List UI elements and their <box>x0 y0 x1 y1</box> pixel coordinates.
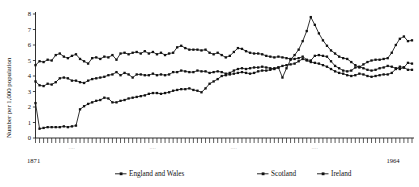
data-point <box>342 69 344 71</box>
data-point <box>51 126 53 128</box>
data-point <box>160 73 162 75</box>
legend-item-scotland[interactable]: Scotland <box>257 170 297 178</box>
data-point <box>87 62 89 64</box>
data-point <box>95 77 97 79</box>
data-point <box>59 77 61 79</box>
data-point <box>249 73 251 75</box>
data-point <box>180 88 182 90</box>
series-scotland <box>34 58 413 87</box>
data-point <box>115 71 117 73</box>
data-point <box>249 67 251 69</box>
data-point <box>273 67 275 69</box>
data-point <box>144 94 146 96</box>
data-point <box>346 70 348 72</box>
legend-item-ireland[interactable]: Ireland <box>317 170 352 178</box>
data-point <box>281 76 283 78</box>
data-point <box>59 126 61 128</box>
data-point <box>67 57 69 59</box>
data-point <box>188 71 190 73</box>
data-point <box>176 89 178 91</box>
data-point <box>42 85 44 87</box>
data-point <box>168 73 170 75</box>
data-point <box>358 73 360 75</box>
data-point <box>391 66 393 68</box>
data-point <box>119 52 121 54</box>
data-point <box>302 40 304 42</box>
data-point <box>261 69 263 71</box>
data-point <box>148 93 150 95</box>
data-point <box>407 69 409 71</box>
data-point <box>314 24 316 26</box>
data-point <box>306 59 308 61</box>
data-point <box>257 66 259 68</box>
data-point <box>261 53 263 55</box>
data-point <box>51 59 53 61</box>
data-point <box>330 68 332 70</box>
data-point <box>370 76 372 78</box>
data-point <box>204 49 206 51</box>
data-point <box>132 76 134 78</box>
data-point <box>403 35 405 37</box>
y-tick-label: 4 <box>28 72 32 79</box>
data-point <box>208 83 210 85</box>
data-point <box>273 56 275 58</box>
data-point <box>136 96 138 98</box>
data-point <box>362 63 364 65</box>
data-point <box>71 125 73 127</box>
data-point <box>156 92 158 94</box>
data-point <box>370 59 372 61</box>
data-point <box>79 58 81 60</box>
data-point <box>55 126 57 128</box>
data-point <box>47 59 49 61</box>
data-point <box>229 55 231 57</box>
data-point <box>217 70 219 72</box>
data-point <box>144 50 146 52</box>
data-point <box>237 68 239 70</box>
data-point <box>212 53 214 55</box>
data-point <box>164 74 166 76</box>
data-point <box>269 55 271 57</box>
data-point <box>354 74 356 76</box>
data-point <box>148 74 150 76</box>
data-point <box>314 62 316 64</box>
data-point <box>310 16 312 18</box>
data-point <box>221 75 223 77</box>
data-point <box>326 66 328 68</box>
data-point <box>91 57 93 59</box>
y-tick-label: 1 <box>28 119 31 126</box>
data-point <box>241 71 243 73</box>
y-tick-label: 7 <box>28 26 32 33</box>
data-point <box>38 128 40 130</box>
data-point <box>38 84 40 86</box>
data-point <box>374 75 376 77</box>
data-point <box>387 73 389 75</box>
data-point <box>164 92 166 94</box>
data-point <box>399 66 401 68</box>
data-point <box>306 30 308 32</box>
data-point <box>140 73 142 75</box>
data-point <box>374 59 376 61</box>
data-point <box>184 88 186 90</box>
data-point <box>233 73 235 75</box>
data-point <box>47 126 49 128</box>
data-point <box>338 72 340 74</box>
data-point <box>200 70 202 72</box>
x-axis-start-year-label: 1871 <box>27 157 40 164</box>
data-point <box>200 91 202 93</box>
data-point <box>103 76 105 78</box>
data-point <box>34 64 36 66</box>
data-point <box>354 64 356 66</box>
data-point <box>354 66 356 68</box>
data-point <box>229 73 231 75</box>
data-point <box>383 58 385 60</box>
data-point <box>298 60 300 62</box>
data-point <box>391 72 393 74</box>
data-point <box>277 66 279 68</box>
x-tick-label: .... <box>231 145 237 150</box>
data-point <box>204 87 206 89</box>
legend-item-england-and-wales[interactable]: England and Wales <box>115 170 184 178</box>
x-axis-end-year-label: 1964 <box>386 157 400 164</box>
data-point <box>71 55 73 57</box>
y-tick-label: 0 <box>28 134 32 141</box>
data-point <box>127 73 129 75</box>
